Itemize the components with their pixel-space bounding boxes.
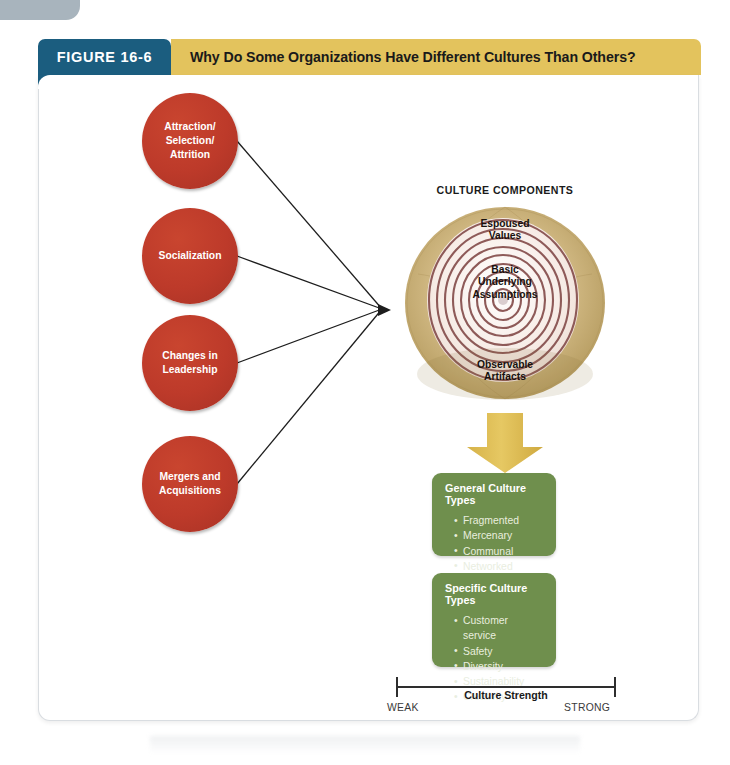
driver-label-line: Acquisitions	[159, 484, 221, 498]
driver-circle-attraction-selection-attrition[interactable]: Attraction/ Selection/ Attrition	[142, 93, 238, 189]
onion-label-basic-underlying-assumptions: Basic Underlying Assumptions	[435, 264, 575, 301]
driver-label-line: Attraction/	[164, 120, 216, 134]
figure-number-tag: FIGURE 16-6	[38, 39, 171, 75]
onion-label-line: Espoused	[480, 218, 529, 229]
scale-label-weak: WEAK	[387, 702, 419, 713]
driver-label-line: Socialization	[159, 249, 222, 263]
onion-label-observable-artifacts: Observable Artifacts	[435, 359, 575, 384]
list-item: Networked	[454, 559, 543, 574]
general-culture-types-box[interactable]: General Culture Types Fragmented Mercena…	[432, 473, 556, 556]
figure-title-bar: Why Do Some Organizations Have Different…	[171, 39, 701, 75]
driver-circle-mergers-and-acquisitions[interactable]: Mergers and Acquisitions	[142, 436, 238, 532]
general-culture-types-list: Fragmented Mercenary Communal Networked	[445, 513, 543, 574]
onion-label-line: Basic	[491, 264, 518, 275]
onion-label-line: Assumptions	[472, 289, 537, 300]
list-item: Safety	[454, 644, 543, 659]
specific-culture-types-title: Specific Culture Types	[445, 582, 543, 606]
specific-culture-types-box[interactable]: Specific Culture Types Customer service …	[432, 573, 556, 667]
general-culture-types-title: General Culture Types	[445, 482, 543, 506]
driver-label-line: Changes in	[162, 349, 218, 363]
onion-label-line: Underlying	[478, 276, 532, 287]
driver-circle-changes-in-leadership[interactable]: Changes in Leadership	[142, 315, 238, 411]
onion-label-line: Artifacts	[484, 371, 526, 382]
scale-axis-line	[396, 686, 616, 688]
figure-header: FIGURE 16-6 Why Do Some Organizations Ha…	[38, 39, 701, 75]
page-bottom-artifact	[150, 736, 580, 754]
driver-circle-socialization[interactable]: Socialization	[142, 208, 238, 304]
page-corner-artifact	[0, 0, 80, 20]
culture-components-heading: CULTURE COMPONENTS	[415, 184, 595, 196]
driver-label-line: Leadership	[162, 363, 218, 377]
list-item: Communal	[454, 544, 543, 559]
driver-label-line: Attrition	[164, 148, 216, 162]
onion-label-line: Values	[489, 230, 522, 241]
onion-label-line: Observable	[477, 359, 533, 370]
scale-label-strong: STRONG	[564, 702, 610, 713]
list-item: Fragmented	[454, 513, 543, 528]
card-corner-notch	[38, 75, 52, 89]
onion-label-espoused-values: Espoused Values	[435, 218, 575, 243]
figure-title: Why Do Some Organizations Have Different…	[171, 49, 636, 65]
onion-diagram: Espoused Values Basic Underlying Assumpt…	[404, 204, 606, 402]
list-item: Mercenary	[454, 528, 543, 543]
driver-label-line: Mergers and	[159, 470, 221, 484]
list-item: Customer service	[454, 613, 543, 644]
driver-label-line: Selection/	[164, 134, 216, 148]
scale-title: Culture Strength	[396, 689, 616, 701]
down-arrow-icon	[465, 413, 545, 475]
list-item: Diversity	[454, 659, 543, 674]
culture-strength-scale: Culture Strength WEAK STRONG	[396, 677, 616, 721]
